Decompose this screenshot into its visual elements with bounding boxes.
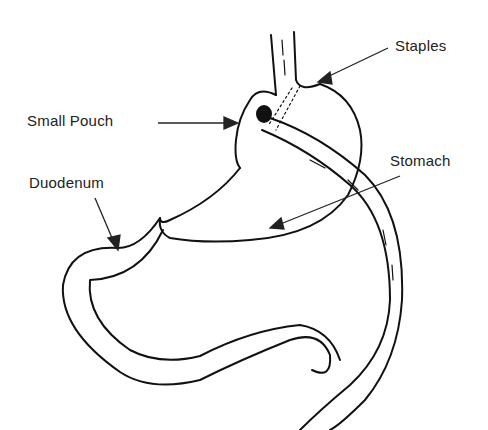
stomach-pointer	[278, 176, 400, 225]
label-staples: Staples	[395, 37, 446, 54]
label-duodenum: Duodenum	[29, 174, 104, 191]
duodenum	[63, 218, 330, 385]
roux-limb	[262, 130, 390, 430]
gastric-bypass-illustration	[0, 0, 488, 430]
esophagus	[271, 35, 276, 95]
label-stomach: Stomach	[390, 152, 451, 169]
small-pouch	[236, 91, 277, 168]
diagram-canvas: Staples Small Pouch Stomach Duodenum	[0, 0, 488, 430]
label-small-pouch: Small Pouch	[27, 112, 113, 129]
staples-pointer	[325, 48, 388, 78]
